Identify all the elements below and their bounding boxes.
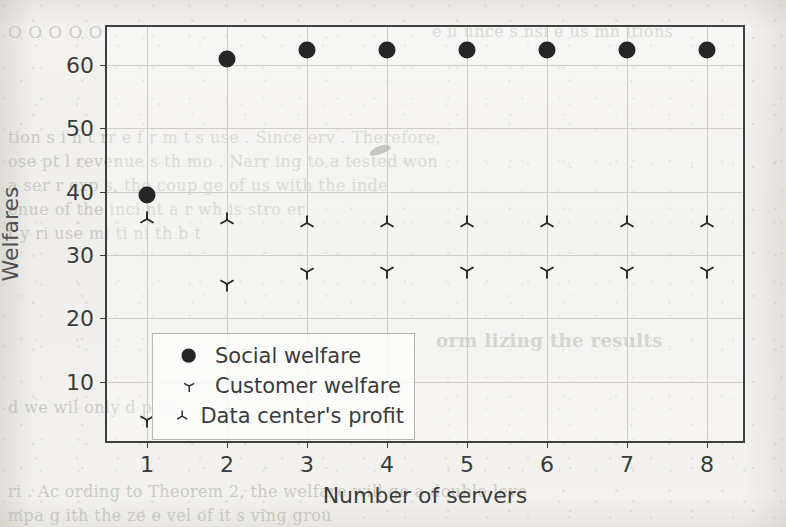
data-point [618, 262, 637, 281]
x-tick-label: 7 [620, 452, 634, 477]
data-point [538, 214, 557, 233]
legend-label: Data center's profit [200, 404, 404, 428]
data-point [458, 41, 476, 59]
x-tick-mark [307, 441, 308, 448]
x-tick-label: 3 [300, 452, 314, 477]
x-axis-label: Number of servers [323, 483, 528, 508]
x-tick-label: 6 [540, 452, 554, 477]
data-point [618, 214, 637, 233]
filled-circle-icon [163, 348, 215, 363]
x-tick-mark [387, 441, 388, 448]
data-point [218, 275, 237, 294]
data-point [698, 214, 717, 233]
x-tick-label: 4 [380, 452, 394, 477]
data-point [378, 214, 397, 233]
data-point [138, 209, 157, 228]
data-point [298, 41, 316, 59]
gridline-horizontal [107, 318, 743, 319]
gridline-vertical [707, 27, 708, 441]
x-tick-mark [227, 441, 228, 448]
legend-label: Social welfare [215, 344, 361, 368]
x-tick-label: 8 [700, 452, 714, 477]
scan-smudge [368, 143, 391, 157]
data-point [138, 186, 156, 204]
y-tick-label: 30 [66, 243, 94, 268]
tri-up-icon [163, 409, 200, 423]
data-point [618, 41, 636, 59]
gridline-vertical [147, 27, 148, 441]
legend-entry: Social welfare [163, 341, 404, 371]
x-tick-mark [467, 441, 468, 448]
data-point [298, 263, 317, 282]
gridline-horizontal [107, 65, 743, 66]
y-tick-label: 20 [66, 306, 94, 331]
data-point [538, 41, 556, 59]
x-tick-label: 5 [460, 452, 474, 477]
data-point [298, 213, 317, 232]
x-tick-mark [147, 441, 148, 448]
data-point [698, 41, 716, 59]
y-tick-label: 40 [66, 179, 94, 204]
legend-entry: Data center's profit [163, 401, 404, 431]
scanned-page: O O O O Oe u unce s nsi e us mn itionsti… [0, 0, 786, 527]
y-tick-label: 10 [66, 369, 94, 394]
gridline-vertical [467, 27, 468, 441]
chart-figure: Welfares Number of servers 102030405060 … [0, 0, 786, 527]
gridline-horizontal [107, 192, 743, 193]
y-tick-mark [100, 382, 107, 383]
x-tick-label: 2 [220, 452, 234, 477]
legend-label: Customer welfare [215, 374, 401, 398]
gridline-vertical [547, 27, 548, 441]
x-tick-label: 1 [140, 452, 154, 477]
y-tick-mark [100, 255, 107, 256]
gridline-horizontal [107, 255, 743, 256]
data-point [458, 262, 477, 281]
y-tick-mark [100, 318, 107, 319]
data-point [458, 214, 477, 233]
data-point [378, 262, 397, 281]
x-tick-mark [547, 441, 548, 448]
tri-down-icon [163, 379, 215, 393]
x-tick-mark [707, 441, 708, 448]
gridline-horizontal [107, 128, 743, 129]
y-axis-label: Welfares [0, 187, 23, 282]
y-tick-mark [100, 128, 107, 129]
y-tick-mark [100, 65, 107, 66]
x-tick-mark [627, 441, 628, 448]
data-point [218, 50, 236, 68]
y-tick-label: 50 [66, 116, 94, 141]
chart-legend: Social welfareCustomer welfareData cente… [152, 333, 415, 440]
y-tick-mark [100, 192, 107, 193]
y-tick-label: 60 [66, 53, 94, 78]
data-point [698, 262, 717, 281]
data-point [378, 41, 396, 59]
gridline-vertical [627, 27, 628, 441]
data-point [218, 210, 237, 229]
data-point [538, 262, 557, 281]
legend-entry: Customer welfare [163, 371, 404, 401]
